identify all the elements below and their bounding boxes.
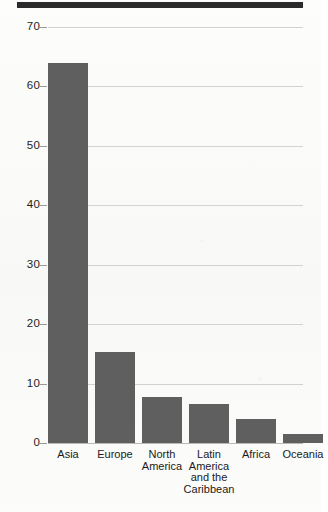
y-tick-mark-50 (39, 146, 47, 147)
x-axis: AsiaEuropeNorthAmericaLatinAmericaand th… (48, 449, 303, 512)
bar (189, 404, 229, 443)
y-axis: 010203040506070 (0, 0, 40, 512)
x-tick-label-line: Oceania (272, 449, 328, 461)
y-tick-mark-40 (39, 205, 47, 206)
bar (95, 352, 135, 443)
bar (283, 434, 323, 444)
plot-area (48, 27, 303, 443)
gridline-70 (48, 27, 303, 28)
y-tick-mark-0 (39, 443, 47, 444)
y-tick-mark-10 (39, 384, 47, 385)
bar (236, 419, 276, 443)
gridline-0 (48, 443, 303, 444)
bar (48, 63, 88, 443)
y-tick-mark-20 (39, 324, 47, 325)
top-banner-rule (17, 2, 303, 8)
x-tick-label-line: Caribbean (178, 484, 240, 496)
y-tick-mark-30 (39, 265, 47, 266)
y-tick-mark-70 (39, 27, 47, 28)
x-tick-label: Oceania (272, 449, 328, 461)
y-tick-mark-60 (39, 86, 47, 87)
bar (142, 397, 182, 443)
